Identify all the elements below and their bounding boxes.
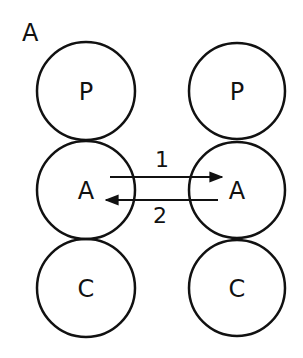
panel-label: A bbox=[22, 19, 39, 47]
right-c-label: C bbox=[229, 275, 246, 303]
right-a-label: A bbox=[229, 177, 246, 205]
arrow-2-label: 2 bbox=[153, 203, 167, 228]
left-a-label: A bbox=[78, 177, 95, 205]
left-p-label: P bbox=[79, 78, 93, 106]
right-column: P A C bbox=[189, 43, 285, 336]
left-column: P A C bbox=[37, 42, 135, 337]
arrow-1-label: 1 bbox=[155, 147, 169, 172]
left-c-label: C bbox=[78, 275, 95, 303]
diagram: A P A C P A C 1 2 bbox=[0, 0, 303, 358]
right-p-label: P bbox=[230, 78, 244, 106]
